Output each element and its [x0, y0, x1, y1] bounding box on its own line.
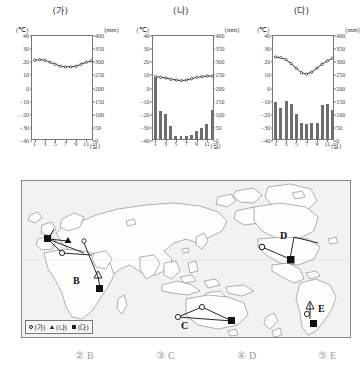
month-axis-tick: 11 — [204, 141, 210, 147]
temperature-point — [70, 66, 72, 68]
precipitation-axis-tick: 200 — [95, 86, 104, 92]
answer-options-row: ②B ③C ④D ⑤E — [0, 344, 362, 372]
legend-label-ga: (가) — [35, 322, 46, 332]
month-axis-tick: 1 — [154, 141, 157, 147]
temperature-point — [44, 59, 46, 61]
plot-inner: 403020100−10−20−30−404003503002502001501… — [32, 36, 92, 139]
temperature-point — [311, 71, 313, 73]
temperature-polyline — [155, 76, 212, 81]
month-axis-tick: 7 — [185, 141, 188, 147]
temperature-point — [49, 61, 51, 63]
map-marker-square — [310, 320, 317, 327]
precipitation-axis-tick: 50 — [216, 125, 222, 131]
temperature-axis-tick: −30 — [140, 125, 149, 131]
climograph-na: (나) (℃) (mm) 403020100−10−20−30−40400350… — [121, 0, 242, 172]
climograph-ga: (가) (℃) (mm) 403020100−10−20−30−40400350… — [0, 0, 121, 172]
temperature-axis-tick: 20 — [264, 59, 270, 65]
answer-option-4[interactable]: ④D — [237, 350, 256, 361]
temperature-point — [295, 67, 297, 69]
map-marker-circle — [259, 244, 265, 250]
temperature-point — [306, 73, 308, 75]
answer-number-4: ④ — [237, 350, 246, 361]
temperature-axis-tick: −10 — [140, 99, 149, 105]
temperature-axis-tick: 10 — [23, 72, 29, 78]
legend-item-ga: (가) — [29, 322, 46, 332]
x-axis-unit-label: (월) — [90, 141, 100, 150]
plot-inner: 403020100−10−20−30−404003503002502001501… — [273, 36, 333, 139]
temperature-axis-tick: 10 — [264, 72, 270, 78]
precipitation-axis-tick: 350 — [336, 46, 345, 52]
map-label-e: E — [318, 303, 325, 314]
month-axis-tick: 9 — [74, 141, 77, 147]
temperature-axis-tick: 20 — [23, 59, 29, 65]
precipitation-axis-tick: 250 — [336, 72, 345, 78]
precipitation-axis-tick: 250 — [95, 72, 104, 78]
answer-number-5: ⑤ — [318, 350, 327, 361]
precipitation-axis-tick: 250 — [216, 72, 225, 78]
month-axis-tick: 7 — [64, 141, 67, 147]
precipitation-unit-label: (mm) — [225, 26, 239, 33]
temperature-axis-tick: −10 — [261, 99, 270, 105]
temperature-axis-tick: −40 — [140, 138, 149, 144]
precipitation-axis-tick: 200 — [336, 86, 345, 92]
temperature-point — [290, 62, 292, 64]
month-axis-tick: 3 — [43, 141, 46, 147]
month-axis-tick: 9 — [316, 141, 319, 147]
temperature-axis-tick: −20 — [140, 112, 149, 118]
square-marker-icon — [72, 325, 76, 329]
temperature-axis-tick: 30 — [23, 46, 29, 52]
temperature-axis-tick: −30 — [20, 125, 29, 131]
answer-number-2: ② — [75, 350, 84, 361]
legend-label-da: (다) — [78, 322, 89, 332]
map-marker-circle — [82, 239, 86, 243]
month-axis-tick: 3 — [285, 141, 288, 147]
answer-option-3[interactable]: ③C — [156, 350, 175, 361]
temperature-point — [80, 63, 82, 65]
temperature-polyline — [276, 57, 333, 74]
temperature-point — [280, 56, 282, 58]
temperature-point — [85, 61, 87, 63]
temperature-point — [154, 75, 156, 77]
triangle-marker-icon — [51, 325, 55, 329]
temperature-axis-tick: −40 — [20, 138, 29, 144]
temperature-point — [54, 63, 56, 65]
climograph-da: (다) (℃) (mm) 403020100−10−20−30−40400350… — [241, 0, 362, 172]
precipitation-axis-tick: 400 — [336, 33, 345, 39]
answer-label-5: E — [330, 350, 336, 361]
precipitation-axis-tick: 400 — [216, 33, 225, 39]
month-axis-tick: 7 — [305, 141, 308, 147]
month-axis-tick: 11 — [325, 141, 331, 147]
precipitation-axis-tick: 150 — [95, 99, 104, 105]
map-marker-square — [96, 285, 103, 292]
answer-option-2[interactable]: ②B — [75, 350, 94, 361]
world-map-svg — [22, 181, 351, 338]
map-marker-circle — [59, 250, 64, 255]
temperature-axis-tick: −20 — [261, 112, 270, 118]
plot-area: 403020100−10−20−30−404003503002502001501… — [31, 35, 93, 140]
map-marker-square — [287, 256, 295, 264]
answer-label-2: B — [87, 350, 94, 361]
chart-title: (나) — [121, 4, 242, 17]
temperature-point — [300, 72, 302, 74]
map-label-b: B — [73, 275, 80, 286]
plot-area: 403020100−10−20−30−404003503002502001501… — [272, 35, 334, 140]
precipitation-unit-label: (mm) — [104, 26, 118, 33]
temperature-axis-tick: 40 — [144, 33, 150, 39]
chart-title: (다) — [241, 4, 362, 17]
temperature-point — [211, 75, 213, 77]
x-axis-unit-label: (월) — [211, 141, 221, 150]
temperature-point — [169, 78, 171, 80]
temperature-point — [321, 63, 323, 65]
precipitation-axis-tick: 100 — [336, 112, 345, 118]
world-map: B C D E (가) (나) (다) — [21, 180, 351, 338]
map-legend: (가) (나) (다) — [25, 320, 93, 334]
map-marker-square — [228, 317, 235, 324]
map-marker-square — [44, 235, 51, 242]
plot-area: 403020100−10−20−30−404003503002502001501… — [152, 35, 214, 140]
answer-option-5[interactable]: ⑤E — [318, 350, 336, 361]
month-axis-tick: 11 — [83, 141, 89, 147]
temperature-point — [316, 67, 318, 69]
temperature-axis-tick: 30 — [144, 46, 150, 52]
temperature-axis-tick: −40 — [261, 138, 270, 144]
temperature-point — [90, 60, 92, 62]
